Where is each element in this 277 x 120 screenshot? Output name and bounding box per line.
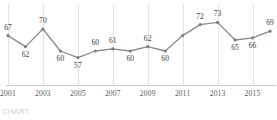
- data-point-2005: [76, 56, 79, 59]
- data-label-2001: 67: [4, 23, 12, 32]
- series-polyline: [8, 22, 270, 57]
- x-axis-tick-labels: 20012003200520072009201120132015: [0, 89, 277, 101]
- tick-label-2011: 2011: [175, 89, 191, 98]
- data-point-2011: [181, 34, 184, 37]
- series-markers: [6, 21, 271, 59]
- tick-label-2007: 2007: [105, 89, 121, 98]
- data-point-2007: [111, 47, 114, 50]
- tick-label-2013: 2013: [210, 89, 226, 98]
- data-point-2010: [164, 49, 167, 52]
- data-label-2015: 66: [249, 41, 257, 50]
- data-point-2012: [199, 23, 202, 26]
- data-point-2009: [146, 45, 149, 48]
- data-label-2007: 61: [109, 36, 117, 45]
- data-label-2016: 69: [266, 18, 274, 27]
- tick-label-2009: 2009: [140, 89, 156, 98]
- data-label-2009: 62: [144, 34, 152, 43]
- data-point-2002: [24, 45, 27, 48]
- tick-label-2005: 2005: [70, 89, 86, 98]
- data-point-2006: [94, 49, 97, 52]
- plot-area: 676270605760616062607273656669: [0, 0, 277, 86]
- data-point-2008: [129, 49, 132, 52]
- data-label-2003: 70: [39, 16, 47, 25]
- data-label-2014: 65: [231, 43, 239, 52]
- line-chart: 676270605760616062607273656669 200120032…: [0, 0, 277, 120]
- data-point-2001: [6, 34, 9, 37]
- footnote: CHART: [2, 108, 122, 120]
- data-label-2004: 60: [57, 54, 65, 63]
- data-point-2003: [41, 27, 44, 30]
- data-label-2002: 62: [22, 50, 30, 59]
- data-point-2015: [251, 36, 254, 39]
- data-point-2014: [233, 38, 236, 41]
- data-label-2008: 60: [126, 54, 134, 63]
- tick-label-2015: 2015: [245, 89, 261, 98]
- data-point-2013: [216, 21, 219, 24]
- data-label-2012: 72: [196, 12, 204, 21]
- data-label-2005: 57: [74, 61, 82, 70]
- data-point-2016: [268, 30, 271, 33]
- data-point-2004: [59, 49, 62, 52]
- tick-label-2003: 2003: [35, 89, 51, 98]
- footnote-text: CHART: [2, 108, 122, 116]
- data-label-2006: 60: [91, 38, 99, 47]
- data-label-2013: 73: [214, 9, 222, 18]
- data-label-2010: 60: [161, 54, 169, 63]
- tick-label-2001: 2001: [0, 89, 16, 98]
